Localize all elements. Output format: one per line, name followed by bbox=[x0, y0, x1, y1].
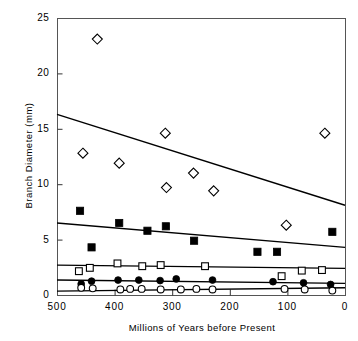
x-tick-label: 500 bbox=[37, 301, 77, 312]
plot-canvas bbox=[0, 0, 358, 341]
point-open-circle bbox=[209, 286, 216, 293]
point-filled-square bbox=[254, 248, 261, 255]
point-filled-circle bbox=[115, 277, 122, 284]
y-tick-label: 15 bbox=[21, 123, 49, 134]
point-open-square bbox=[114, 260, 121, 267]
point-open-square bbox=[75, 268, 82, 275]
point-filled-circle bbox=[270, 278, 277, 285]
point-open-diamond bbox=[78, 148, 88, 158]
point-open-square bbox=[319, 267, 326, 274]
x-tick-label: 100 bbox=[267, 301, 307, 312]
point-filled-square bbox=[76, 207, 83, 214]
x-tick-label: 400 bbox=[95, 301, 135, 312]
point-open-square bbox=[298, 267, 305, 274]
x-tick-label: 200 bbox=[210, 301, 250, 312]
point-open-circle bbox=[281, 286, 288, 293]
point-open-circle bbox=[117, 286, 124, 293]
point-open-circle bbox=[193, 286, 200, 293]
fit-line-filled-square bbox=[57, 223, 345, 247]
point-filled-circle bbox=[88, 278, 95, 285]
y-tick-label: 25 bbox=[21, 12, 49, 23]
point-filled-circle bbox=[300, 279, 307, 286]
point-filled-circle bbox=[157, 277, 164, 284]
point-open-diamond bbox=[320, 128, 330, 138]
point-filled-circle bbox=[209, 277, 216, 284]
point-open-diamond bbox=[92, 34, 102, 44]
point-open-diamond bbox=[281, 220, 291, 230]
point-open-diamond bbox=[209, 186, 219, 196]
point-open-circle bbox=[301, 286, 308, 293]
point-open-square bbox=[157, 262, 164, 269]
point-filled-square bbox=[273, 248, 280, 255]
point-filled-square bbox=[116, 219, 123, 226]
point-open-circle bbox=[177, 286, 184, 293]
point-open-circle bbox=[127, 286, 134, 293]
point-filled-square bbox=[162, 223, 169, 230]
point-open-circle bbox=[78, 284, 85, 291]
point-open-circle bbox=[329, 287, 336, 294]
point-filled-square bbox=[88, 244, 95, 251]
point-open-square bbox=[139, 263, 146, 270]
point-open-square bbox=[86, 264, 93, 271]
point-open-circle bbox=[138, 286, 145, 293]
y-tick-label: 10 bbox=[21, 178, 49, 189]
x-tick-label: 300 bbox=[152, 301, 192, 312]
y-tick-label: 20 bbox=[21, 67, 49, 78]
point-open-square bbox=[202, 263, 209, 270]
point-filled-square bbox=[190, 237, 197, 244]
point-open-diamond bbox=[160, 128, 170, 138]
point-open-circle bbox=[157, 286, 164, 293]
point-filled-circle bbox=[135, 277, 142, 284]
point-open-diamond bbox=[161, 183, 171, 193]
chart-figure: Branch Diameter (mm) Millions of Years b… bbox=[0, 0, 358, 341]
point-open-diamond bbox=[114, 158, 124, 168]
point-filled-square bbox=[329, 228, 336, 235]
point-open-diamond bbox=[189, 168, 199, 178]
point-open-circle bbox=[89, 285, 96, 292]
y-tick-label: 0 bbox=[21, 289, 49, 300]
point-open-square bbox=[278, 273, 285, 280]
fit-line-open-diamond bbox=[57, 114, 345, 205]
point-filled-square bbox=[144, 227, 151, 234]
plot-frame bbox=[58, 19, 346, 296]
point-filled-circle bbox=[173, 276, 180, 283]
y-tick-label: 5 bbox=[21, 234, 49, 245]
x-tick-label: 0 bbox=[325, 301, 358, 312]
